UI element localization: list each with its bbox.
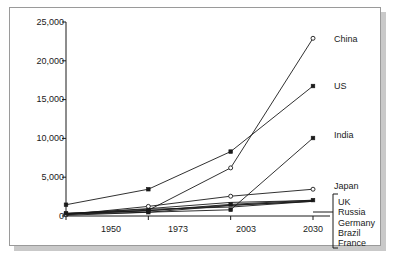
series-label-france: France <box>338 238 366 248</box>
y-tick-label-15000: 15,000 <box>18 94 64 104</box>
series-label-uk: UK <box>338 197 351 207</box>
x-tick-label-2003: 2003 <box>222 224 270 234</box>
y-tick-label-5000: 5,000 <box>18 172 64 182</box>
series-label-germany: Germany <box>338 218 375 228</box>
x-tick-label-1973: 1973 <box>154 224 202 234</box>
series-label-japan: Japan <box>334 181 359 191</box>
x-tick-label-1950: 1950 <box>87 224 135 234</box>
series-label-india: India <box>334 130 354 140</box>
series-label-us: US <box>334 81 347 91</box>
series-label-china: China <box>334 34 358 44</box>
y-tick-label-25000: 25,000 <box>18 17 64 27</box>
chart-panel <box>9 7 381 246</box>
y-tick-label-20000: 20,000 <box>18 56 64 66</box>
y-tick-label-0: 0 <box>18 211 64 221</box>
series-label-brazil: Brazil <box>338 228 361 238</box>
y-tick-label-10000: 10,000 <box>18 133 64 143</box>
series-label-russia: Russia <box>338 207 366 217</box>
chart-figure: 25,000 20,000 15,000 10,000 5,000 0 1950… <box>0 0 405 268</box>
x-tick-label-2030: 2030 <box>289 224 337 234</box>
